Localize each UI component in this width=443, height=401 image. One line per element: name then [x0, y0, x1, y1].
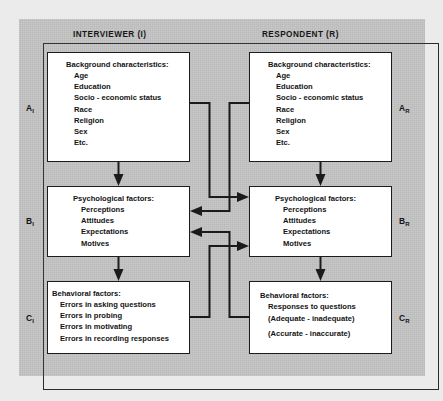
side-label-c-respondent: CR — [399, 313, 409, 323]
side-label-b-interviewer: BI — [26, 216, 34, 226]
column-header-respondent: RESPONDENT (R) — [262, 30, 339, 39]
box-a-r-item: Education — [250, 81, 391, 92]
box-b-r-item: Expectations — [250, 226, 391, 237]
box-b-i-item: Perceptions — [48, 204, 189, 215]
box-behavioral-factors-respondent: Behavioral factors: Responses to questio… — [249, 281, 392, 354]
side-label-c-i-sub: I — [32, 318, 34, 324]
box-b-r-content: Psychological factors: Perceptions Attit… — [250, 193, 391, 249]
box-a-r-item: Religion — [250, 115, 391, 126]
box-a-i-item: Religion — [48, 115, 189, 126]
box-a-r-item: Age — [250, 70, 391, 81]
box-c-r-item: Responses to questions — [250, 301, 391, 312]
box-a-r-content: Background characteristics: Age Educatio… — [250, 59, 391, 148]
side-label-b-i-sub: I — [32, 221, 34, 227]
box-b-r-title: Psychological factors: — [250, 193, 391, 204]
side-label-c-r-sub: R — [405, 318, 409, 324]
box-a-i-item: Socio - economic status — [48, 92, 189, 103]
box-c-i-item: Errors in probing — [48, 310, 189, 321]
box-c-r-content: Behavioral factors: Responses to questio… — [250, 290, 391, 341]
side-label-a-r-sub: R — [405, 108, 409, 114]
box-c-i-content: Behavioral factors: Errors in asking que… — [48, 288, 189, 344]
box-c-r-item: (Adequate - inadequate) — [250, 312, 391, 327]
side-label-a-i-sub: I — [32, 108, 34, 114]
side-label-b-r-sub: R — [405, 221, 409, 227]
box-c-r-title: Behavioral factors: — [250, 290, 391, 301]
box-b-i-item: Attitudes — [48, 215, 189, 226]
box-b-i-item: Motives — [48, 238, 189, 249]
box-a-i-title: Background characteristics: — [48, 59, 189, 70]
side-label-a-interviewer: AI — [26, 103, 34, 113]
box-a-r-title: Background characteristics: — [250, 59, 391, 70]
box-b-i-item: Expectations — [48, 226, 189, 237]
box-c-i-title: Behavioral factors: — [48, 288, 189, 299]
box-b-i-title: Psychological factors: — [48, 193, 189, 204]
column-header-interviewer: INTERVIEWER (I) — [73, 30, 146, 39]
side-label-c-interviewer: CI — [26, 313, 34, 323]
box-background-characteristics-respondent: Background characteristics: Age Educatio… — [249, 52, 392, 162]
box-c-i-item: Errors in recording responses — [48, 333, 189, 344]
box-psychological-factors-respondent: Psychological factors: Perceptions Attit… — [249, 186, 392, 257]
box-b-r-item: Attitudes — [250, 215, 391, 226]
box-a-r-item: Race — [250, 104, 391, 115]
box-behavioral-factors-interviewer: Behavioral factors: Errors in asking que… — [47, 281, 190, 354]
box-a-i-item: Education — [48, 81, 189, 92]
box-a-i-content: Background characteristics: Age Educatio… — [48, 59, 189, 148]
box-b-r-item: Motives — [250, 238, 391, 249]
box-a-i-item: Sex — [48, 126, 189, 137]
figure-page: INTERVIEWER (I) RESPONDENT (R) — [0, 0, 443, 401]
box-c-i-item: Errors in asking questions — [48, 299, 189, 310]
box-b-i-content: Psychological factors: Perceptions Attit… — [48, 193, 189, 249]
box-a-r-item: Socio - economic status — [250, 92, 391, 103]
box-a-i-item: Age — [48, 70, 189, 81]
box-a-i-item: Etc. — [48, 137, 189, 148]
box-background-characteristics-interviewer: Background characteristics: Age Educatio… — [47, 52, 190, 162]
box-c-r-item: (Accurate - inaccurate) — [250, 327, 391, 342]
box-psychological-factors-interviewer: Psychological factors: Perceptions Attit… — [47, 186, 190, 257]
box-c-i-item: Errors in motivating — [48, 321, 189, 332]
side-label-a-respondent: AR — [399, 103, 409, 113]
box-b-r-item: Perceptions — [250, 204, 391, 215]
box-a-r-item: Etc. — [250, 137, 391, 148]
side-label-b-respondent: BR — [399, 216, 409, 226]
box-a-r-item: Sex — [250, 126, 391, 137]
box-a-i-item: Race — [48, 104, 189, 115]
